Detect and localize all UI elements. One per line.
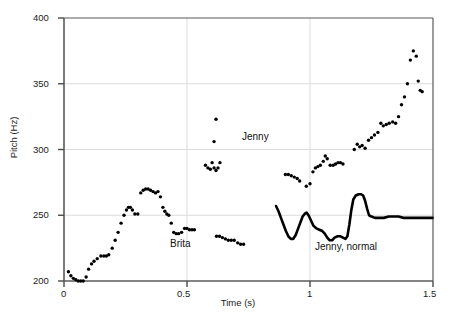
data-point: [311, 170, 314, 173]
data-point: [139, 191, 142, 194]
data-point: [373, 133, 376, 136]
data-point: [360, 144, 363, 147]
data-point: [379, 122, 382, 125]
y-axis-title: Pitch (Hz): [8, 108, 19, 168]
data-point: [224, 237, 227, 240]
data-point: [111, 246, 114, 249]
data-point: [412, 49, 415, 52]
data-point: [218, 161, 221, 164]
data-point: [230, 239, 233, 242]
data-point: [136, 212, 139, 215]
data-point: [119, 221, 122, 224]
data-point: [400, 103, 403, 106]
data-point: [370, 136, 373, 139]
data-point: [133, 212, 136, 215]
data-point: [131, 208, 134, 211]
data-point: [394, 122, 397, 125]
data-point: [391, 120, 394, 123]
data-point: [319, 164, 322, 167]
data-point: [170, 221, 173, 224]
data-point: [385, 123, 388, 126]
xtick-label-0: 0: [61, 288, 66, 299]
data-point: [159, 195, 162, 198]
annotation-jenny: Jenny: [242, 131, 269, 142]
chart-canvas: [0, 0, 459, 322]
data-point: [122, 214, 125, 217]
data-point: [236, 241, 239, 244]
annotation-brita: Brita: [170, 238, 191, 249]
data-point: [397, 115, 400, 118]
ytick-label-300: 300: [33, 144, 49, 155]
data-point: [328, 164, 331, 167]
data-point: [296, 177, 299, 180]
data-point: [341, 162, 344, 165]
data-point: [403, 95, 406, 98]
data-point: [305, 185, 308, 188]
data-point: [417, 79, 420, 82]
data-point: [96, 257, 99, 260]
data-point: [116, 231, 119, 234]
data-point: [298, 179, 301, 182]
ytick-label-250: 250: [33, 209, 49, 220]
data-point: [290, 174, 293, 177]
data-point: [233, 239, 236, 242]
data-point: [212, 140, 215, 143]
data-point: [113, 239, 116, 242]
data-point: [161, 206, 164, 209]
data-point: [227, 239, 230, 242]
data-point: [90, 262, 93, 265]
data-point: [367, 139, 370, 142]
data-point: [420, 90, 423, 93]
ytick-label-350: 350: [33, 78, 49, 89]
data-point: [215, 235, 218, 238]
data-point: [84, 275, 87, 278]
x-axis-title: Time (s): [188, 297, 288, 308]
data-point: [356, 143, 359, 146]
data-point: [308, 182, 311, 185]
data-point: [353, 148, 356, 151]
data-point: [287, 173, 290, 176]
series-jenny-points: [204, 49, 424, 188]
data-point: [376, 131, 379, 134]
data-point: [67, 270, 70, 273]
data-point: [239, 242, 242, 245]
data-point: [382, 124, 385, 127]
data-point: [209, 168, 212, 171]
xtick-label-1: 1: [307, 288, 312, 299]
data-point: [216, 166, 219, 169]
data-point: [388, 122, 391, 125]
data-point: [193, 228, 196, 231]
y-tick-marks: [58, 18, 64, 281]
data-point: [363, 146, 366, 149]
annotation-jenny-normal: Jenny, normal: [315, 241, 377, 252]
series-jenny-normal-line: [276, 194, 432, 240]
x-tick-marks: [64, 281, 433, 287]
data-point: [214, 118, 217, 121]
data-point: [242, 242, 245, 245]
gridlines: [64, 18, 433, 281]
data-point: [322, 160, 325, 163]
data-point: [92, 260, 95, 263]
data-point: [167, 214, 170, 217]
data-point: [326, 157, 329, 160]
xtick-label-1.5: 1.5: [423, 288, 436, 299]
data-point: [415, 54, 418, 57]
data-point: [107, 253, 110, 256]
data-point: [204, 164, 207, 167]
pitch-time-chart: 400 350 300 250 200 0 0.5 1 1.5 Pitch (H…: [0, 0, 459, 322]
data-point: [284, 173, 287, 176]
data-point: [87, 267, 90, 270]
data-point: [177, 232, 180, 235]
data-point: [406, 82, 409, 85]
series-brita-points: [67, 187, 246, 282]
data-point: [409, 58, 412, 61]
data-point: [210, 161, 213, 164]
ytick-label-200: 200: [33, 275, 49, 286]
data-point: [221, 236, 224, 239]
data-point: [218, 235, 221, 238]
data-point: [293, 175, 296, 178]
data-point: [99, 254, 102, 257]
data-point: [81, 279, 84, 282]
data-point: [156, 190, 159, 193]
data-point: [69, 274, 72, 277]
